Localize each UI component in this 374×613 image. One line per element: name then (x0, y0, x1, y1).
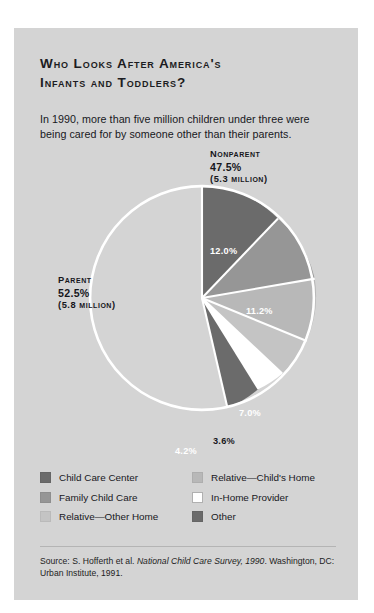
pie-chart: Nonparent 47.5% (5.3 million) Parent 52.… (14, 146, 358, 486)
legend-item-child-care-center: Child Care Center (40, 472, 192, 483)
legend-item-relative-other-home: Relative—Other Home (40, 511, 192, 522)
legend-label-child-care-center: Child Care Center (59, 472, 138, 483)
callout-parent-name: Parent (58, 274, 116, 287)
slice-label-relative-childs-home: 9.5% (253, 365, 275, 375)
legend-label-other: Other (211, 511, 236, 522)
figure-title-line-2: Infants and Toddlers? (40, 73, 340, 92)
legend-label-relative-other-home: Relative—Other Home (59, 511, 158, 522)
callout-nonparent-count: (5.3 million) (210, 173, 268, 186)
source-divider (40, 546, 336, 547)
legend-item-other: Other (192, 511, 340, 522)
legend-swatch-family-child-care (40, 492, 51, 503)
legend-row: Relative—Other Home Other (40, 511, 340, 522)
figure-deck: In 1990, more than five million children… (40, 112, 336, 141)
callout-nonparent-percent: 47.5% (210, 161, 268, 174)
slice-label-family-child-care: 11.2% (246, 306, 273, 316)
figure-title-line-1: Who Looks After America's (40, 54, 340, 73)
chart-legend: Child Care Center Relative—Child's Home … (40, 472, 340, 531)
legend-label-family-child-care: Family Child Care (59, 492, 137, 503)
slice-label-in-home-provider: 3.6% (213, 436, 235, 446)
figure-card: Who Looks After America's Infants and To… (14, 28, 358, 600)
slice-label-child-care-center: 12.0% (210, 246, 237, 256)
legend-swatch-child-care-center (40, 472, 51, 483)
source-prefix: Source: S. Hofferth et al. (40, 556, 137, 566)
source-title: National Child Care Survey, 1990 (137, 556, 265, 566)
legend-swatch-relative-childs-home (192, 472, 203, 483)
callout-parent-percent: 52.5% (58, 287, 116, 300)
legend-swatch-other (192, 511, 203, 522)
callout-parent-count: (5.8 million) (58, 299, 116, 312)
pie-graphic (86, 182, 318, 414)
figure-title: Who Looks After America's Infants and To… (40, 54, 340, 92)
legend-swatch-relative-other-home (40, 511, 51, 522)
source-note: Source: S. Hofferth et al. National Chil… (40, 556, 340, 579)
legend-item-relative-childs-home: Relative—Child's Home (192, 472, 340, 483)
callout-parent: Parent 52.5% (5.8 million) (58, 274, 116, 312)
callout-nonparent-name: Nonparent (210, 148, 268, 161)
legend-row: Child Care Center Relative—Child's Home (40, 472, 340, 483)
legend-item-in-home-provider: In-Home Provider (192, 492, 340, 503)
legend-label-in-home-provider: In-Home Provider (211, 492, 288, 503)
legend-item-family-child-care: Family Child Care (40, 492, 192, 503)
legend-swatch-in-home-provider (192, 492, 203, 503)
callout-nonparent: Nonparent 47.5% (5.3 million) (210, 148, 268, 186)
legend-row: Family Child Care In-Home Provider (40, 492, 340, 503)
slice-label-other: 4.2% (175, 446, 197, 456)
legend-label-relative-childs-home: Relative—Child's Home (211, 472, 315, 483)
page-top-margin (0, 0, 374, 12)
slice-label-relative-other-home: 7.0% (239, 408, 261, 418)
